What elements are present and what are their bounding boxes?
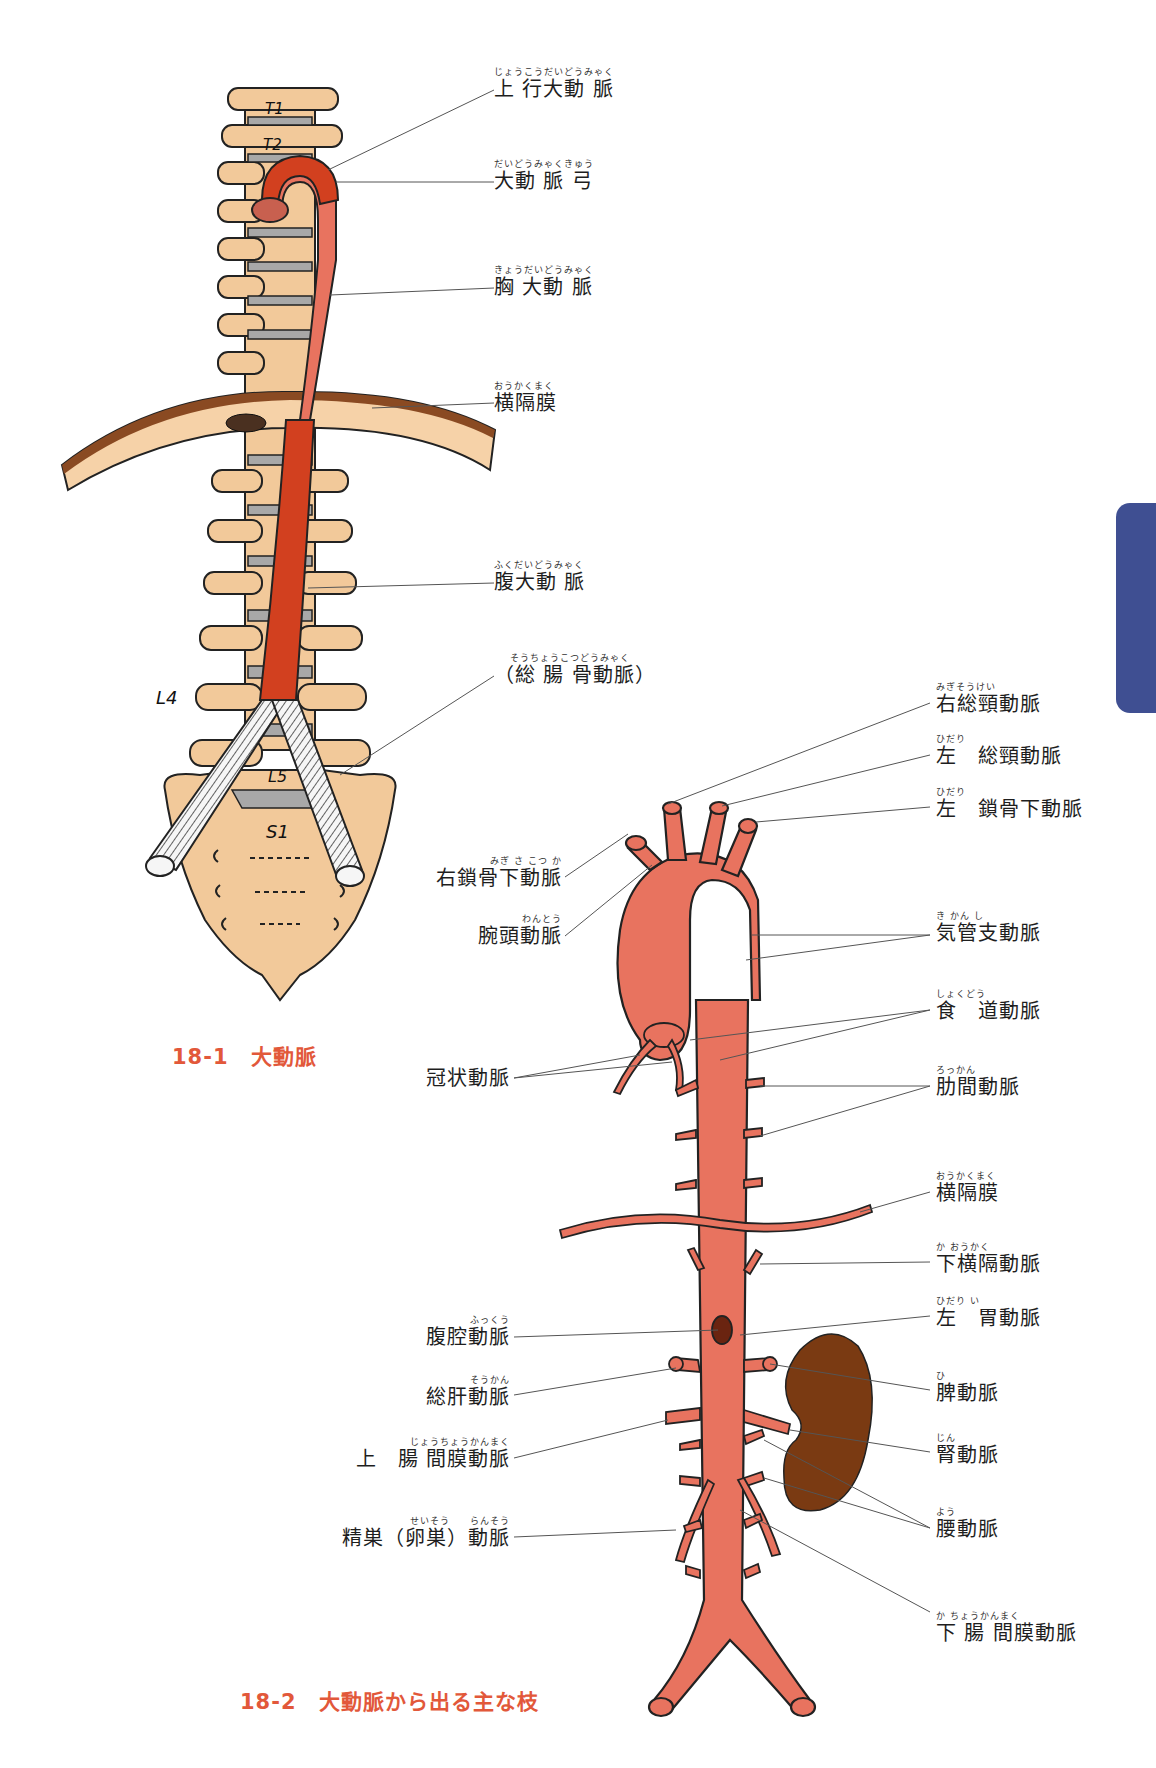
label-text: 腕頭動脈 — [478, 926, 562, 946]
label-text: （総 腸 骨動脈） — [494, 665, 656, 685]
label-text: 腹腔動脈 — [426, 1327, 510, 1347]
label-left-subclavian: ひだり 左 鎖骨下動脈 — [936, 788, 1083, 819]
label-text: 上 腸 間膜動脈 — [356, 1449, 510, 1469]
figure2-caption: 18-2 大動脈から出る主な枝 — [240, 1685, 539, 1715]
label-text: 腎動脈 — [936, 1445, 999, 1465]
vertebra-label-l5: L5 — [268, 767, 287, 786]
label-text: 気管支動脈 — [936, 923, 1041, 943]
label-text: 横隔膜 — [494, 393, 557, 413]
label-splenic: ひ 脾動脈 — [936, 1372, 999, 1403]
label-right-subclavian: みぎ さ こつ か 右鎖骨下動脈 — [436, 857, 562, 888]
label-diaphragm-2: おうかくまく 横隔膜 — [936, 1172, 999, 1203]
vertebra-label-t1: T1 — [265, 100, 284, 118]
label-ascending-aorta: じょうこうだいどうみゃく 上 行大動 脈 — [494, 68, 614, 99]
label-abdominal-aorta: ふくだいどうみゃく 腹大動 脈 — [494, 561, 585, 592]
vertebra-label-l4: L4 — [156, 687, 177, 708]
kidney-shape — [784, 1334, 872, 1511]
label-ruby: みぎそうけい — [936, 683, 1041, 692]
label-text: 食 道動脈 — [936, 1001, 1041, 1021]
label-ruby: だいどうみゃくきゅう — [494, 160, 594, 169]
label-text: 腰動脈 — [936, 1519, 999, 1539]
label-text: 右鎖骨下動脈 — [436, 868, 562, 888]
vertebra-label-s1: S1 — [266, 821, 289, 842]
label-ruby: きょうだいどうみゃく — [494, 266, 594, 275]
label-ruby: ふっくう — [426, 1316, 510, 1325]
label-ruby: そうかん — [426, 1376, 510, 1385]
label-thoracic-aorta: きょうだいどうみゃく 胸 大動 脈 — [494, 266, 594, 297]
label-ruby: よう — [936, 1508, 999, 1517]
label-ruby: みぎ さ こつ か — [436, 857, 562, 866]
figure2-aorta — [618, 802, 816, 1716]
label-inferior-phrenic: か おうかく 下横隔動脈 — [936, 1243, 1041, 1274]
label-ruby: ふくだいどうみゃく — [494, 561, 585, 570]
label-ruby: そうちょうこつどうみゃく — [494, 654, 656, 663]
label-ruby: おうかくまく — [494, 382, 557, 391]
label-ruby: ひだり — [936, 735, 1062, 744]
label-inferior-mesenteric: か ちょうかんまく 下 腸 間膜動脈 — [936, 1612, 1077, 1643]
label-text: 肋間動脈 — [936, 1077, 1020, 1097]
label-ruby: か ちょうかんまく — [936, 1612, 1077, 1621]
label-superior-mesenteric: じょうちょうかんまく 上 腸 間膜動脈 — [356, 1438, 510, 1469]
label-ruby: わんとう — [478, 915, 562, 924]
label-intercostal-arteries: ろっかん 肋間動脈 — [936, 1066, 1020, 1097]
label-text: 大動 脈 弓 — [494, 171, 594, 191]
label-text: 冠状動脈 — [426, 1068, 510, 1088]
label-text: 精巣（卵巣）動脈 — [342, 1528, 510, 1548]
label-left-gastric: ひだり い 左 胃動脈 — [936, 1297, 1041, 1328]
label-text: 左 総頸動脈 — [936, 746, 1062, 766]
label-text: 胸 大動 脈 — [494, 277, 594, 297]
label-text: 下横隔動脈 — [936, 1254, 1041, 1274]
label-aortic-arch: だいどうみゃくきゅう 大動 脈 弓 — [494, 160, 594, 191]
chapter-side-tab — [1116, 503, 1156, 713]
label-ruby: じょうちょうかんまく — [356, 1438, 510, 1447]
label-esophageal-arteries: しょくどう 食 道動脈 — [936, 990, 1041, 1021]
label-ruby: ひだり — [936, 788, 1083, 797]
label-ruby: か おうかく — [936, 1243, 1041, 1252]
label-text: 左 鎖骨下動脈 — [936, 799, 1083, 819]
label-gonadal: せいそう らんそう 精巣（卵巣）動脈 — [342, 1517, 510, 1548]
label-text: 上 行大動 脈 — [494, 79, 614, 99]
label-common-iliac-artery: そうちょうこつどうみゃく （総 腸 骨動脈） — [494, 654, 656, 685]
label-ruby: ひだり い — [936, 1297, 1041, 1306]
figure1-caption: 18-1 大動脈 — [172, 1040, 317, 1070]
label-left-common-carotid: ひだり 左 総頸動脈 — [936, 735, 1062, 766]
label-ruby: おうかくまく — [936, 1172, 999, 1181]
label-renal: じん 腎動脈 — [936, 1434, 999, 1465]
label-ruby: き かん し — [936, 912, 1041, 921]
label-common-hepatic: そうかん 総肝動脈 — [426, 1376, 510, 1407]
vertebra-label-t2: T2 — [263, 136, 282, 154]
label-text: 右総頸動脈 — [936, 694, 1041, 714]
label-brachiocephalic: わんとう 腕頭動脈 — [478, 915, 562, 946]
label-ruby: ろっかん — [936, 1066, 1020, 1075]
label-text: 下 腸 間膜動脈 — [936, 1623, 1077, 1643]
label-diaphragm: おうかくまく 横隔膜 — [494, 382, 557, 413]
label-text: 総肝動脈 — [426, 1387, 510, 1407]
label-text: 腹大動 脈 — [494, 572, 585, 592]
label-ruby: ひ — [936, 1372, 999, 1381]
label-text: 横隔膜 — [936, 1183, 999, 1203]
label-right-common-carotid: みぎそうけい 右総頸動脈 — [936, 683, 1041, 714]
label-text: 脾動脈 — [936, 1383, 999, 1403]
label-coronary: 冠状動脈 — [426, 1068, 510, 1088]
label-text: 左 胃動脈 — [936, 1308, 1041, 1328]
label-ruby: せいそう らんそう — [342, 1517, 510, 1526]
label-bronchial-arteries: き かん し 気管支動脈 — [936, 912, 1041, 943]
label-celiac: ふっくう 腹腔動脈 — [426, 1316, 510, 1347]
label-ruby: じょうこうだいどうみゃく — [494, 68, 614, 77]
label-lumbar: よう 腰動脈 — [936, 1508, 999, 1539]
label-ruby: じん — [936, 1434, 999, 1443]
label-ruby: しょくどう — [936, 990, 1041, 999]
